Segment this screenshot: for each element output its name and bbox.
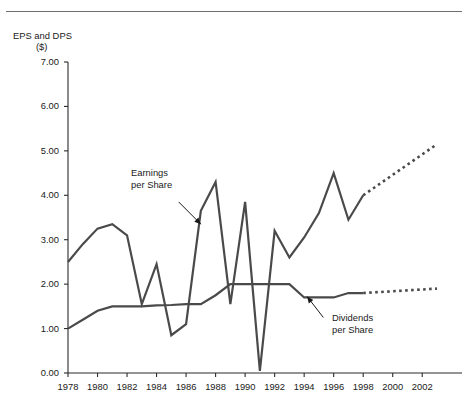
- y-tick-label: 1.00: [23, 323, 59, 334]
- y-tick-label: 7.00: [23, 56, 59, 67]
- series-line: [363, 289, 437, 293]
- y-tick-label: 5.00: [23, 145, 59, 156]
- y-tick-label: 0.00: [23, 367, 59, 378]
- y-tick-label: 6.00: [23, 100, 59, 111]
- y-tick-label: 2.00: [23, 278, 59, 289]
- y-tick-label: 3.00: [23, 234, 59, 245]
- chart-page: EPS and DPS ($) Earnings per Share Divid…: [0, 0, 468, 413]
- x-tick-label: 2002: [402, 381, 442, 392]
- chart-axes: [64, 62, 462, 377]
- series-line: [68, 284, 363, 328]
- chart-series: [68, 144, 437, 371]
- series-line: [363, 144, 437, 195]
- series-line: [68, 173, 363, 371]
- y-tick-label: 4.00: [23, 189, 59, 200]
- chart-plot-area: [0, 0, 468, 413]
